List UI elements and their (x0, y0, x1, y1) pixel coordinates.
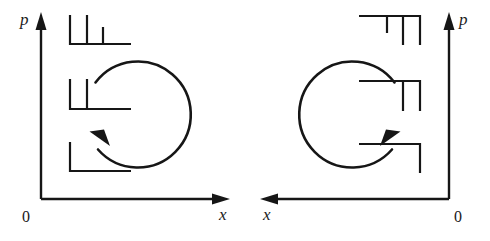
comb-middle-right (359, 80, 421, 111)
phase-space-figure: p x 0 (0, 0, 490, 241)
phase-space-panel-right: p x 0 (245, 0, 490, 241)
p-axis-right (444, 12, 455, 199)
p-axis-label-left: p (20, 11, 29, 28)
p-axis-label-right: p (459, 11, 468, 28)
comb-bottom-right (359, 143, 421, 173)
origin-label-right: 0 (454, 209, 462, 225)
panel-right-graphics (245, 0, 490, 241)
x-axis-label-left: x (219, 206, 227, 223)
panel-left-graphics (0, 0, 245, 241)
comb-top-left (69, 15, 131, 45)
trajectory-circle-right (299, 61, 400, 167)
x-axis-label-right: x (263, 206, 271, 223)
p-axis-left (36, 12, 47, 199)
phase-space-panel-left: p x 0 (0, 0, 245, 241)
trajectory-circle-left (90, 61, 191, 167)
comb-top-right (359, 15, 421, 45)
comb-bottom-left (69, 142, 131, 172)
x-axis-left (41, 194, 230, 205)
comb-middle-left (69, 79, 131, 110)
origin-label-left: 0 (22, 209, 30, 225)
x-axis-right (260, 194, 449, 205)
